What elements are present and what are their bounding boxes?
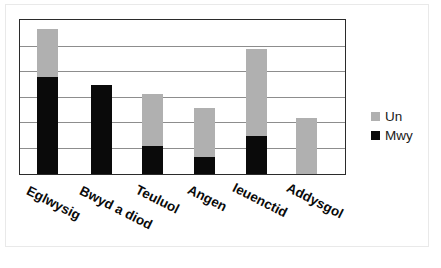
bar-segment-un: [194, 108, 215, 158]
chart-legend: Un Mwy: [371, 107, 433, 145]
bar-group: [194, 108, 215, 174]
legend-swatch-icon-mwy: [371, 131, 380, 140]
bar-segment-mwy: [91, 85, 112, 174]
legend-item-mwy: Mwy: [371, 126, 433, 145]
bar-segment-un: [296, 118, 317, 174]
bar-segment-mwy: [142, 146, 163, 174]
chart-figure: EglwysigBwyd a diodTeuluolAngenIeuenctid…: [0, 0, 441, 268]
bar-segment-un: [246, 49, 267, 136]
category-label: Bwyd a diod: [77, 183, 155, 232]
category-label: Eglwysig: [24, 183, 83, 223]
bar-segment-mwy: [246, 136, 267, 174]
bar-group: [296, 118, 317, 174]
bar-group: [37, 29, 58, 174]
bar-segment-un: [142, 94, 163, 146]
bar-group: [246, 49, 267, 174]
legend-label-mwy: Mwy: [385, 129, 413, 143]
category-label: Ieuenctid: [230, 180, 290, 220]
legend-swatch-icon-un: [371, 112, 380, 121]
legend-label-un: Un: [385, 110, 402, 124]
category-label: Teuluol: [133, 182, 182, 217]
category-label: Angen: [185, 182, 229, 214]
plot-area: [19, 19, 346, 175]
legend-item-un: Un: [371, 107, 433, 126]
bar-segment-mwy: [37, 77, 58, 174]
bar-group: [91, 85, 112, 174]
bar-segment-un: [37, 29, 58, 77]
bars-layer: [20, 20, 345, 174]
category-label: Addysgol: [284, 180, 346, 221]
bar-group: [142, 94, 163, 174]
bar-segment-mwy: [194, 157, 215, 174]
